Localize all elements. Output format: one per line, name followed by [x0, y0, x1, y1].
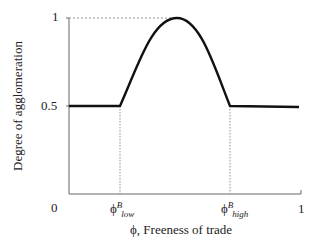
x-tick-label-low: ϕBlow — [110, 200, 134, 219]
y-axis-title: Degree of agglomeration — [10, 26, 26, 186]
y-tick-label-1: 1 — [52, 9, 59, 25]
agglomeration-curve — [69, 18, 299, 107]
origin-label: 0 — [51, 200, 58, 216]
x-tick-label-1: 1 — [298, 201, 305, 217]
y-tick-label-half: 0.5 — [41, 98, 57, 114]
x-axis-title: ϕ, Freeness of trade — [130, 222, 232, 238]
chart-canvas — [0, 0, 318, 250]
x-tick-label-high: ϕBhigh — [221, 200, 248, 219]
